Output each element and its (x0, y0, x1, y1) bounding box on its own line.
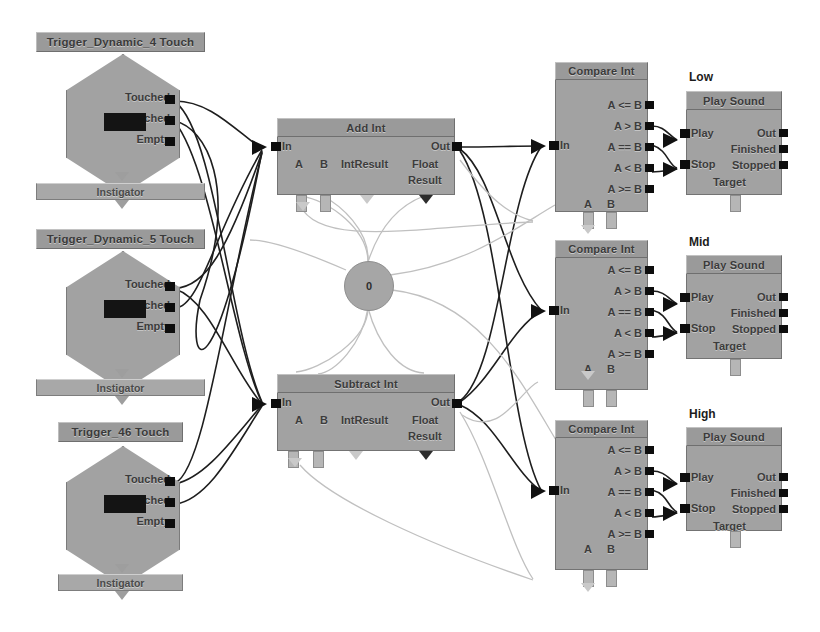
compare-int-node-1[interactable] (555, 258, 648, 390)
subtract-int-title[interactable]: Subtract Int (277, 374, 455, 393)
compare-int-in-pin-1[interactable] (549, 306, 559, 315)
play-sound-play-label-2: Play (691, 471, 714, 483)
subtract-int-float-result-pin[interactable] (419, 451, 433, 460)
play-sound-finished-pin-1[interactable] (779, 309, 788, 317)
compare-int-output-pin-1-1[interactable] (645, 287, 654, 295)
play-sound-target-pin-1[interactable] (730, 359, 741, 376)
compare-int-output-label-1-1: A > B (570, 285, 642, 297)
event-instigator-2[interactable]: Instigator (58, 574, 183, 591)
event-selection-highlight-1 (104, 300, 146, 318)
compare-int-var-a-arrow-1[interactable] (581, 371, 595, 380)
add-int-float-result-label-line1: Float (412, 158, 438, 170)
add-int-float-result-pin[interactable] (419, 195, 433, 204)
event-output-pin-1-1[interactable] (165, 303, 175, 312)
compare-int-in-pin-0[interactable] (549, 141, 559, 150)
play-sound-out-pin-1[interactable] (779, 293, 788, 301)
event-output-pin-1-2[interactable] (165, 324, 175, 333)
play-sound-finished-label-0: Finished (712, 143, 776, 155)
add-int-var-b-pin[interactable] (320, 195, 331, 212)
play-sound-finished-pin-0[interactable] (779, 145, 788, 153)
event-title-2[interactable]: Trigger_46 Touch (58, 422, 183, 442)
event-output-pin-2-1[interactable] (165, 498, 175, 507)
compare-int-title-0[interactable]: Compare Int (555, 62, 648, 80)
add-int-title[interactable]: Add Int (277, 118, 455, 137)
event-selection-highlight-2 (104, 495, 146, 513)
compare-int-node-2[interactable] (555, 438, 648, 570)
add-int-int-result-pin-2[interactable] (360, 195, 374, 204)
add-int-int-result-pin[interactable] (296, 202, 310, 211)
play-sound-finished-pin-2[interactable] (779, 489, 788, 497)
add-int-out-pin[interactable] (452, 142, 462, 151)
event-output-pin-2-0[interactable] (165, 477, 175, 486)
kismet-graph-canvas[interactable]: Trigger_Dynamic_4 Touch Touched UnTouche… (0, 0, 820, 632)
event-instigator-0[interactable]: Instigator (36, 183, 205, 200)
event-output-pin-2-2[interactable] (165, 519, 175, 528)
subtract-int-in-pin[interactable] (271, 399, 281, 408)
play-sound-play-pin-0[interactable] (680, 129, 690, 138)
compare-int-var-b-pin-1[interactable] (606, 390, 617, 407)
play-sound-play-pin-1[interactable] (680, 293, 690, 302)
play-sound-target-pin-0[interactable] (730, 195, 741, 212)
compare-int-output-pin-2-3[interactable] (645, 509, 654, 517)
event-output-label-0-2: Empty (66, 133, 170, 145)
play-sound-stopped-pin-0[interactable] (779, 161, 788, 169)
compare-int-output-pin-1-4[interactable] (645, 350, 654, 358)
compare-int-output-pin-1-0[interactable] (645, 266, 654, 274)
play-sound-out-pin-2[interactable] (779, 473, 788, 481)
play-sound-finished-label-1: Finished (712, 307, 776, 319)
add-int-var-b-label: B (320, 158, 328, 170)
subtract-int-var-a-arrow[interactable] (288, 458, 302, 467)
play-sound-title-1[interactable]: Play Sound (686, 255, 782, 274)
play-sound-play-pin-2[interactable] (680, 473, 690, 482)
play-sound-stop-pin-2[interactable] (680, 504, 690, 513)
compare-int-output-pin-2-0[interactable] (645, 446, 654, 454)
event-instigator-1[interactable]: Instigator (36, 379, 205, 396)
event-output-pin-0-0[interactable] (165, 95, 175, 104)
compare-int-output-label-2-4: A >= B (570, 528, 642, 540)
play-sound-title-0[interactable]: Play Sound (686, 91, 782, 110)
play-sound-target-pin-2[interactable] (730, 531, 741, 548)
play-sound-stop-pin-0[interactable] (680, 160, 690, 169)
event-output-pin-1-0[interactable] (165, 282, 175, 291)
compare-int-output-pin-2-4[interactable] (645, 530, 654, 538)
subtract-int-int-result-pin[interactable] (349, 451, 363, 460)
compare-int-output-pin-1-3[interactable] (645, 329, 654, 337)
compare-int-in-label-1: In (560, 304, 570, 316)
play-sound-out-label-2: Out (712, 471, 776, 483)
event-title-0[interactable]: Trigger_Dynamic_4 Touch (36, 32, 205, 52)
compare-int-output-pin-1-2[interactable] (645, 308, 654, 316)
subtract-int-int-result-label: IntResult (341, 414, 388, 426)
compare-int-output-pin-2-1[interactable] (645, 467, 654, 475)
compare-int-output-pin-0-2[interactable] (645, 143, 654, 151)
compare-int-output-pin-0-1[interactable] (645, 122, 654, 130)
play-sound-stopped-pin-2[interactable] (779, 505, 788, 513)
event-output-label-0-0: Touched (66, 91, 170, 103)
play-sound-out-pin-0[interactable] (779, 129, 788, 137)
compare-int-in-pin-2[interactable] (549, 486, 559, 495)
compare-int-output-pin-2-2[interactable] (645, 488, 654, 496)
compare-int-title-2[interactable]: Compare Int (555, 420, 648, 438)
play-sound-title-2[interactable]: Play Sound (686, 427, 782, 446)
subtract-int-out-pin[interactable] (452, 399, 462, 408)
play-sound-stop-pin-1[interactable] (680, 324, 690, 333)
subtract-int-var-b-pin[interactable] (313, 451, 324, 468)
compare-int-output-pin-0-4[interactable] (645, 185, 654, 193)
event-output-pin-0-1[interactable] (165, 116, 175, 125)
compare-int-output-label-1-0: A <= B (570, 264, 642, 276)
event-output-label-2-0: Touched (66, 473, 170, 485)
play-sound-stopped-pin-1[interactable] (779, 325, 788, 333)
compare-int-output-pin-0-0[interactable] (645, 101, 654, 109)
int-variable-node[interactable]: 0 (344, 261, 394, 311)
sound-group-label-1: Mid (689, 235, 710, 249)
compare-int-var-a-pin-1[interactable] (583, 390, 594, 407)
event-output-pin-0-2[interactable] (165, 137, 175, 146)
compare-int-var-a-label-2: A (584, 543, 592, 555)
compare-int-var-b-pin-2[interactable] (606, 570, 617, 587)
compare-int-var-b-pin-0[interactable] (606, 212, 617, 229)
compare-int-var-a-arrow-0[interactable] (581, 225, 595, 234)
add-int-in-pin[interactable] (271, 142, 281, 151)
compare-int-title-1[interactable]: Compare Int (555, 240, 648, 258)
compare-int-output-pin-0-3[interactable] (645, 164, 654, 172)
event-title-1[interactable]: Trigger_Dynamic_5 Touch (36, 229, 205, 249)
compare-int-var-a-arrow-2[interactable] (581, 583, 595, 592)
